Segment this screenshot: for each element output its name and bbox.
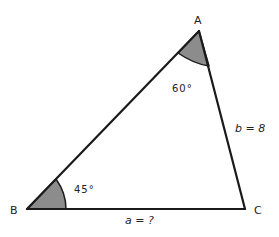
side-label-b: b = 8 [235, 122, 265, 135]
angle-label-b: 45° [74, 184, 95, 195]
side-c-ab [27, 31, 199, 209]
angle-label-a: 60° [172, 83, 193, 94]
vertex-label-b: B [10, 204, 18, 217]
side-label-a: a = ? [125, 214, 154, 227]
vertex-label-c: C [254, 204, 262, 217]
triangle-diagram: A B C 60° 45° b = 8 a = ? [0, 0, 279, 237]
side-b-ac [199, 31, 245, 209]
vertex-label-a: A [194, 14, 202, 27]
